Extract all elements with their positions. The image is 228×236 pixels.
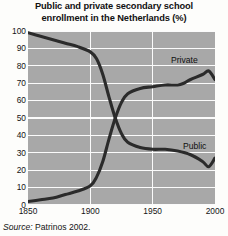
x-axis: 1850190019502000 — [0, 207, 228, 220]
x-tick-label: 1850 — [8, 207, 48, 216]
y-tick-label: 10 — [2, 183, 26, 191]
y-tick-label: 100 — [2, 27, 26, 35]
x-tick-label: 1950 — [133, 207, 173, 216]
chart-title: Public and private secondary school enro… — [0, 1, 228, 24]
x-tick-label: 2000 — [195, 207, 228, 216]
public-series-label: Public — [183, 142, 206, 151]
chart-title-line-2: enrollment in the Netherlands (%) — [0, 13, 228, 25]
source-text: Patrinos 2002. — [35, 222, 90, 232]
y-tick-label: 60 — [2, 96, 26, 104]
chart-figure: Public and private secondary school enro… — [0, 0, 228, 236]
y-axis: 0102030405060708090100 — [0, 0, 26, 236]
y-tick-label: 30 — [2, 149, 26, 157]
source-label: Source: — [3, 222, 33, 232]
y-tick-label: 80 — [2, 62, 26, 70]
y-tick-label: 90 — [2, 44, 26, 52]
y-tick-label: 40 — [2, 131, 26, 139]
y-tick-label: 20 — [2, 166, 26, 174]
y-tick-label: 50 — [2, 114, 26, 122]
chart-title-line-1: Public and private secondary school — [0, 1, 228, 13]
x-tick-label: 1900 — [70, 207, 110, 216]
y-tick-label: 70 — [2, 79, 26, 87]
private-series-label: Private — [171, 56, 198, 65]
source-note: Source: Patrinos 2002. — [3, 222, 90, 232]
